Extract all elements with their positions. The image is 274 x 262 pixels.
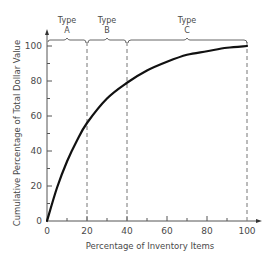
y-tick-60: 60 <box>31 111 43 121</box>
y-axis-arrow-icon <box>45 29 49 35</box>
region-b-label-letter: B <box>104 26 110 35</box>
abc-curve <box>47 46 247 221</box>
region-c-label-letter: C <box>184 26 190 35</box>
y-ticks <box>47 46 52 204</box>
abc-chart: 100 80 60 40 20 0 0 20 40 60 80 100 Perc… <box>0 0 274 262</box>
region-a-label-letter: A <box>64 26 70 35</box>
x-tick-60: 60 <box>161 226 173 236</box>
x-tick-0: 0 <box>44 226 50 236</box>
region-b-label-type: Type <box>97 16 116 25</box>
x-tick-100: 100 <box>238 226 255 236</box>
y-tick-100: 100 <box>25 41 42 51</box>
x-axis-arrow-icon <box>256 219 262 223</box>
region-c-label-type: Type <box>177 16 196 25</box>
y-tick-0: 0 <box>36 216 42 226</box>
x-axis-title: Percentage of Inventory Items <box>86 241 215 251</box>
y-tick-40: 40 <box>31 146 43 156</box>
y-tick-80: 80 <box>31 76 43 86</box>
x-tick-40: 40 <box>121 226 133 236</box>
x-tick-80: 80 <box>201 226 213 236</box>
x-tick-20: 20 <box>81 226 93 236</box>
x-ticks <box>67 216 227 221</box>
region-braces <box>48 38 247 43</box>
y-axis-title: Cumulative Percentage of Total Dollar Va… <box>12 40 22 226</box>
region-a-label-type: Type <box>57 16 76 25</box>
region-dividers <box>87 42 247 221</box>
y-tick-20: 20 <box>31 181 43 191</box>
